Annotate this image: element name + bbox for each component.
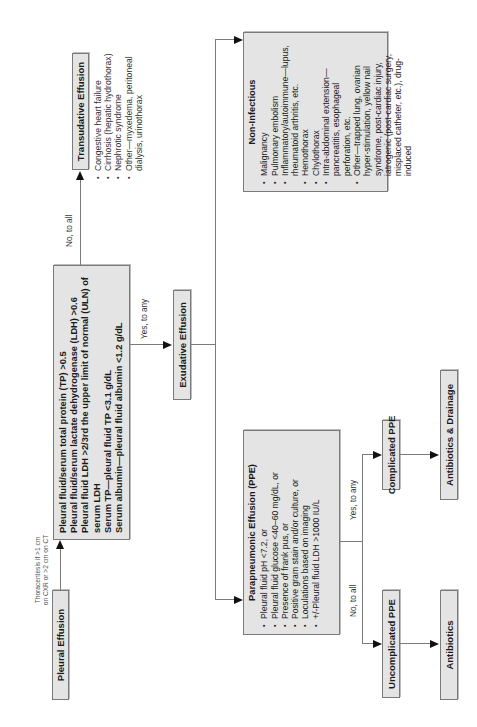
exudative-effusion-label: Exudative Effusion: [177, 302, 188, 388]
transudative-cause: Nephrotic syndrome: [113, 45, 123, 171]
ppe-criterion: Pleural fluid pH <7.2, or: [259, 437, 269, 619]
thoracentesis-label: Thoracentesis if >1 cm on CXR or >2 cm o…: [34, 525, 50, 615]
no-to-all-label-ppe: No, to all: [349, 585, 358, 617]
ppe-criterion: +/-Pleural fluid LDH >1000 IU/L: [311, 437, 321, 619]
transudative-effusion-box: Transudative Effusion: [72, 53, 89, 170]
connector-to-antibiotics: [400, 643, 431, 644]
connector-ppe-to-split: [340, 541, 362, 542]
criteria-line-2: Pleural fluid/serum lactate dehydrogenas…: [69, 272, 80, 533]
connector-criteria-to-transudative: [80, 179, 81, 265]
no-to-all-label-transudative: No, to all: [65, 215, 74, 247]
complicated-ppe-box: Complicated PPE: [382, 420, 400, 490]
ppe-criterion: Pleural fluid glucose <40–60 mg/dL, or: [270, 437, 280, 619]
non-infectious-title: Non-Infectious: [247, 39, 257, 185]
criteria-line-5: Serum albumin—pleural fluid albumin <1.2…: [114, 272, 125, 533]
non-infectious-cause: Chylothorax: [311, 39, 321, 176]
non-infectious-cause: Hemothorax: [300, 39, 310, 176]
lights-criteria-box: Pleural fluid/serum total protein (TP) >…: [53, 265, 130, 540]
pleural-effusion-label: Pleural Effusion: [55, 609, 66, 681]
antibiotics-box: Antibiotics: [440, 590, 458, 700]
non-infectious-box: Non-Infectious Malignancy Pulmonary embo…: [243, 32, 388, 192]
flowchart-canvas: Pleural Effusion Thoracentesis if >1 cm …: [0, 0, 477, 727]
connector-criteria-to-exudative: [130, 344, 164, 345]
non-infectious-cause: Malignancy: [259, 39, 269, 176]
exudative-effusion-box: Exudative Effusion: [173, 290, 191, 400]
non-infectious-cause: Inflammatory/autoimmune—lupus, rheumatoi…: [280, 39, 301, 176]
arrow-to-antibiotics-icon: [430, 640, 439, 648]
branch-line-exudative: [215, 40, 216, 600]
connector-exudative-to-branch: [191, 344, 215, 345]
transudative-causes-list: Congestive heart failure Cirrhosis (hepa…: [93, 45, 144, 180]
transudative-cause: Cirrhosis (hepatic hydrothorax): [103, 45, 113, 171]
arrow-to-antibiotics-drainage-icon: [430, 451, 439, 459]
transudative-cause: Other—myxedema, peritoneal dialysis, uri…: [124, 45, 144, 171]
transudative-cause: Congestive heart failure: [93, 45, 103, 171]
non-infectious-cause: Other—trapped lung, ovarian hyper-stimul…: [352, 39, 414, 176]
arrow-to-transudative-icon: [76, 171, 84, 180]
ppe-criterion: Presence of frank pus, or: [280, 437, 290, 619]
criteria-line-1: Pleural fluid/serum total protein (TP) >…: [58, 272, 69, 533]
ppe-criterion: Loculations based on imaging: [300, 437, 310, 619]
uncomplicated-ppe-box: Uncomplicated PPE: [382, 590, 400, 698]
arrow-to-non-infectious-icon: [234, 36, 243, 44]
branch-line-ppe: [362, 454, 363, 644]
arrow-to-exudative-icon: [163, 341, 172, 349]
criteria-line-3: Pleural fluid LDH >2/3rd the upper limit…: [80, 272, 102, 533]
ppe-box: Parapneumonic Effusion (PPE) Pleural flu…: [243, 430, 340, 635]
connector-to-ppe: [215, 599, 235, 600]
arrow-to-ppe-icon: [234, 596, 243, 604]
transudative-effusion-label: Transudative Effusion: [75, 62, 86, 161]
antibiotics-drainage-label: Antibiotics & Drainage: [444, 384, 455, 486]
yes-to-any-label-ppe: Yes, to any: [349, 480, 358, 520]
non-infectious-cause: Pulmonary embolism: [270, 39, 280, 176]
criteria-line-4: Serum TP—pleural fluid TP <3.1 g/dL: [103, 272, 114, 533]
antibiotics-drainage-box: Antibiotics & Drainage: [440, 370, 458, 500]
yes-to-any-label-exudative: Yes, to any: [140, 299, 149, 339]
arrow-to-complicated-icon: [373, 451, 382, 459]
arrow-to-criteria-icon: [56, 540, 64, 549]
antibiotics-label: Antibiotics: [444, 620, 455, 669]
ppe-title: Parapneumonic Effusion (PPE): [247, 437, 257, 628]
complicated-ppe-label: Complicated PPE: [386, 416, 397, 495]
arrow-to-uncomplicated-icon: [373, 640, 382, 648]
connector-pleural-to-criteria: [60, 548, 61, 590]
non-infectious-cause: Intra-abdominal extension—pancreatitis, …: [321, 39, 352, 176]
connector-to-antibiotics-drainage: [400, 454, 431, 455]
uncomplicated-ppe-label: Uncomplicated PPE: [386, 599, 397, 689]
pleural-effusion-box: Pleural Effusion: [52, 590, 69, 700]
ppe-criterion: Positive gram stain and/or culture, or: [290, 437, 300, 619]
connector-to-non-infectious: [215, 39, 235, 40]
